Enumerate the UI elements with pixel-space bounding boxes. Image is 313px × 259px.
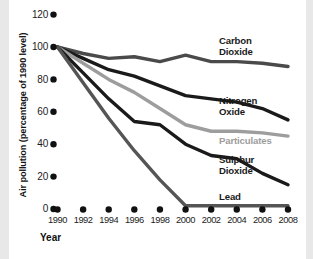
- x-tick-dot: [234, 206, 240, 212]
- x-tick-label: 2008: [275, 215, 301, 225]
- series-label-sulphur-dioxide: Sulphur Dioxide: [219, 155, 254, 176]
- y-tick-label: 40: [22, 138, 48, 149]
- y-tick-dot: [50, 76, 56, 82]
- y-axis-tick-dots-group: [50, 11, 56, 212]
- series-label-carbon-dioxide: Carbon Dioxide: [219, 36, 253, 57]
- x-tick-label: 2004: [224, 215, 250, 225]
- x-tick-dot: [80, 206, 86, 212]
- y-tick-label: 120: [22, 9, 48, 20]
- x-tick-label: 1994: [96, 215, 122, 225]
- x-tick-dot: [131, 206, 137, 212]
- series-label-lead: Lead: [219, 192, 241, 203]
- y-tick-dot: [50, 44, 56, 50]
- x-tick-label: 1996: [121, 215, 147, 225]
- x-tick-dot: [285, 206, 291, 212]
- x-tick-dot: [182, 206, 188, 212]
- x-tick-dot: [259, 206, 265, 212]
- y-tick-dot: [50, 141, 56, 147]
- x-tick-label: 1990: [45, 215, 71, 225]
- x-tick-dot: [106, 206, 112, 212]
- x-tick-label: 1992: [70, 215, 96, 225]
- x-tick-label: 2000: [173, 215, 199, 225]
- y-tick-dot: [50, 11, 56, 17]
- chart-figure: Air pollution (percentage of 1990 level)…: [0, 0, 313, 259]
- y-tick-label: 100: [22, 41, 48, 52]
- y-tick-label: 20: [22, 171, 48, 182]
- x-tick-label: 2006: [249, 215, 275, 225]
- x-tick-label: 2002: [198, 215, 224, 225]
- y-tick-dot: [50, 109, 56, 115]
- y-tick-dot: [50, 173, 56, 179]
- series-label-particulates: Particulates: [219, 136, 272, 147]
- x-tick-dot: [208, 206, 214, 212]
- x-tick-dot: [54, 206, 60, 212]
- y-tick-label: 80: [22, 74, 48, 85]
- series-label-nitrogen-oxide: Nitrogen Oxide: [219, 96, 257, 117]
- y-tick-label: 60: [22, 106, 48, 117]
- x-axis-title: Year: [40, 232, 61, 243]
- x-tick-label: 1998: [147, 215, 173, 225]
- y-tick-label: 0: [22, 203, 48, 214]
- x-tick-dot: [157, 206, 163, 212]
- series-lines-group: [58, 47, 289, 206]
